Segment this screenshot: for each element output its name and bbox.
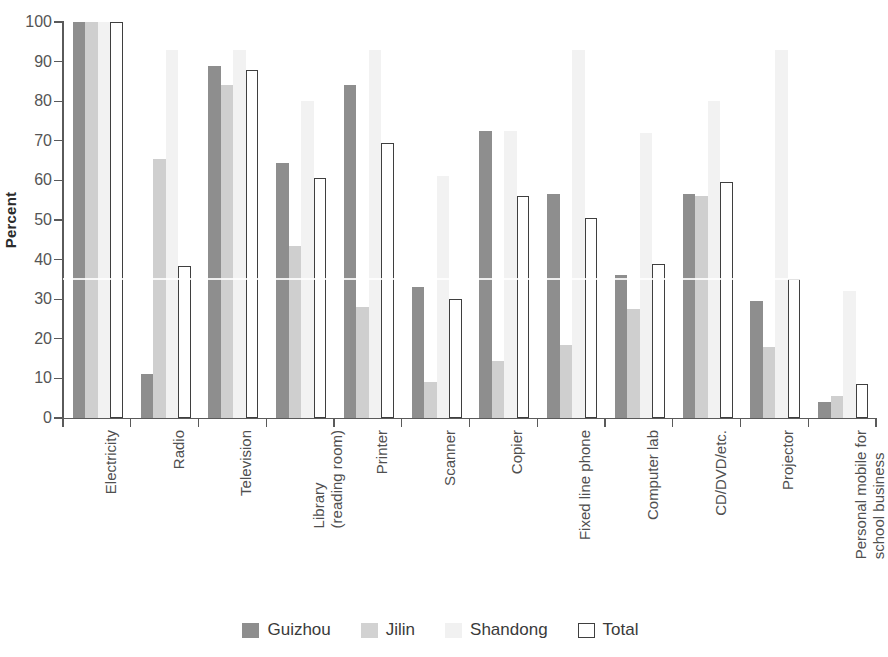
- bar-television-shandong: [233, 50, 246, 418]
- bar-library-reading-room--shandong: [301, 101, 314, 418]
- x-category-label-line1: Fixed line phone: [576, 430, 593, 540]
- legend-swatch-icon: [578, 623, 595, 638]
- bar-printer-total: [381, 143, 394, 418]
- y-tick-mark: [54, 61, 63, 62]
- y-tick-mark: [54, 180, 63, 181]
- bar-electricity-guizhou: [73, 22, 86, 418]
- bar-television-total: [246, 70, 259, 418]
- bar-cd-dvd-etc--jilin: [695, 196, 708, 418]
- x-category-label-line1: Copier: [508, 430, 525, 474]
- bar-library-reading-room--jilin: [289, 246, 302, 418]
- legend-swatch-icon: [242, 623, 259, 638]
- x-category-label: Television: [237, 430, 255, 496]
- bar-television-jilin: [221, 85, 234, 418]
- x-category-label-line1: Computer lab: [644, 430, 661, 520]
- bar-copier-jilin: [492, 361, 505, 418]
- x-tick-mark: [62, 418, 63, 427]
- bar-projector-guizhou: [750, 301, 763, 418]
- bar-fixed-line-phone-total: [585, 218, 598, 418]
- x-category-label: Library(reading room): [310, 430, 345, 528]
- x-tick-mark: [672, 418, 673, 427]
- y-tick-mark: [54, 140, 63, 141]
- x-category-label: Scanner: [441, 430, 459, 486]
- bar-radio-shandong: [166, 50, 179, 418]
- bar-electricity-jilin: [85, 22, 98, 418]
- legend-swatch-icon: [361, 623, 378, 638]
- bar-printer-jilin: [356, 307, 369, 418]
- bar-printer-shandong: [369, 50, 382, 418]
- x-category-label-line1: Printer: [373, 430, 390, 474]
- x-category-label: Computer lab: [644, 430, 662, 520]
- bar-personal-mobile-for-school-business-total: [856, 384, 869, 418]
- x-tick-mark: [808, 418, 809, 427]
- legend-label: Guizhou: [267, 620, 330, 640]
- bar-electricity-total: [110, 22, 123, 418]
- bar-cd-dvd-etc--shandong: [708, 101, 721, 418]
- x-tick-mark: [740, 418, 741, 427]
- x-tick-mark: [401, 418, 402, 427]
- legend-label: Total: [603, 620, 639, 640]
- x-tick-mark: [469, 418, 470, 427]
- bar-copier-guizhou: [479, 131, 492, 418]
- x-category-label-line1: CD/DVD/etc.: [712, 430, 729, 516]
- bar-personal-mobile-for-school-business-guizhou: [818, 402, 831, 418]
- chart-legend: GuizhouJilinShandongTotal: [0, 620, 881, 640]
- x-category-label: Copier: [508, 430, 526, 474]
- plot-area: [63, 22, 876, 418]
- y-tick-label: 60: [34, 172, 52, 188]
- legend-item-jilin[interactable]: Jilin: [361, 620, 415, 640]
- legend-item-guizhou[interactable]: Guizhou: [242, 620, 330, 640]
- x-category-label-line1: Personal mobile for: [852, 430, 869, 559]
- bar-scanner-jilin: [424, 382, 437, 418]
- bar-personal-mobile-for-school-business-jilin: [831, 396, 844, 418]
- x-category-label-line1: Projector: [779, 430, 796, 490]
- bar-projector-total: [788, 279, 801, 418]
- bar-television-guizhou: [208, 66, 221, 418]
- legend-label: Shandong: [470, 620, 548, 640]
- y-tick-label: 40: [34, 252, 52, 268]
- x-tick-mark: [537, 418, 538, 427]
- x-category-label: Radio: [170, 430, 188, 469]
- y-tick-mark: [54, 259, 63, 260]
- y-tick-label: 0: [43, 410, 52, 426]
- legend-item-shandong[interactable]: Shandong: [445, 620, 548, 640]
- bar-projector-jilin: [763, 347, 776, 418]
- bar-fixed-line-phone-jilin: [560, 345, 573, 418]
- y-tick-mark: [54, 299, 63, 300]
- x-category-label: Printer: [373, 430, 391, 474]
- y-tick-label: 90: [34, 54, 52, 70]
- x-category-label: Projector: [779, 430, 797, 490]
- x-category-label: Electricity: [102, 430, 120, 494]
- bar-printer-guizhou: [344, 85, 357, 418]
- x-tick-mark: [198, 418, 199, 427]
- y-tick-mark: [54, 219, 63, 220]
- bar-fixed-line-phone-guizhou: [547, 194, 560, 418]
- y-tick-mark: [54, 101, 63, 102]
- bar-projector-shandong: [775, 50, 788, 418]
- bar-electricity-shandong: [98, 22, 111, 418]
- bar-personal-mobile-for-school-business-shandong: [843, 291, 856, 418]
- bar-computer-lab-shandong: [640, 133, 653, 418]
- bar-radio-guizhou: [141, 374, 154, 418]
- bar-computer-lab-guizhou: [615, 275, 628, 418]
- x-category-label-line1: Electricity: [102, 430, 119, 494]
- x-tick-mark: [130, 418, 131, 427]
- bar-scanner-guizhou: [412, 287, 425, 418]
- y-tick-label: 10: [34, 370, 52, 386]
- y-tick-mark: [54, 338, 63, 339]
- y-tick-label: 20: [34, 331, 52, 347]
- x-category-label: Fixed line phone: [576, 430, 594, 540]
- y-tick-label: 70: [34, 133, 52, 149]
- bar-fixed-line-phone-shandong: [572, 50, 585, 418]
- bar-scanner-shandong: [437, 176, 450, 418]
- legend-label: Jilin: [386, 620, 415, 640]
- bar-computer-lab-total: [652, 264, 665, 418]
- x-category-label-line2: school business: [870, 430, 888, 559]
- bar-scanner-total: [449, 299, 462, 418]
- legend-item-total[interactable]: Total: [578, 620, 639, 640]
- bar-library-reading-room--total: [314, 178, 327, 418]
- x-category-label-line2: (reading room): [328, 430, 346, 528]
- x-category-label-line1: Radio: [170, 430, 187, 469]
- y-tick-label: 100: [25, 14, 52, 30]
- bar-library-reading-room--guizhou: [276, 163, 289, 418]
